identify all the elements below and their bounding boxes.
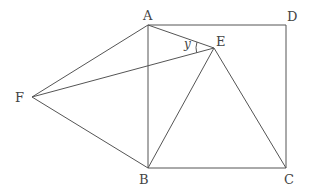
angle-label-y: y <box>183 37 191 51</box>
segments <box>32 25 286 168</box>
vertex-label-f: F <box>15 90 24 105</box>
vertex-label-e: E <box>216 34 226 49</box>
vertex-label-b: B <box>139 172 149 187</box>
segment-fe <box>32 48 214 97</box>
segment-fa <box>32 25 148 97</box>
segment-eb <box>148 48 214 168</box>
angle-arc-at-e <box>196 42 197 53</box>
segment-ec <box>214 48 286 168</box>
segment-ae <box>148 25 214 48</box>
segment-fb <box>32 97 148 168</box>
vertex-labels: A D B C E F <box>15 8 297 187</box>
vertex-label-d: D <box>287 9 297 24</box>
vertex-label-a: A <box>142 8 153 23</box>
vertex-label-c: C <box>284 172 294 187</box>
geometry-diagram: y A D B C E F <box>0 0 310 193</box>
